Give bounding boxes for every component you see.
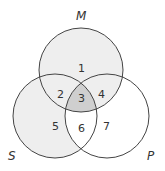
- label-m: M: [76, 9, 87, 23]
- venn-diagram: M S P 1 2 3 4 5 6 7: [0, 0, 165, 171]
- region-6-label: 6: [78, 122, 85, 135]
- region-7-label: 7: [103, 120, 110, 133]
- label-p: P: [147, 149, 155, 163]
- region-1-label: 1: [78, 62, 85, 75]
- region-5-label: 5: [52, 120, 59, 133]
- region-4-label: 4: [98, 88, 105, 101]
- label-s: S: [8, 149, 16, 163]
- region-2-label: 2: [57, 88, 64, 101]
- region-3-label: 3: [78, 92, 85, 105]
